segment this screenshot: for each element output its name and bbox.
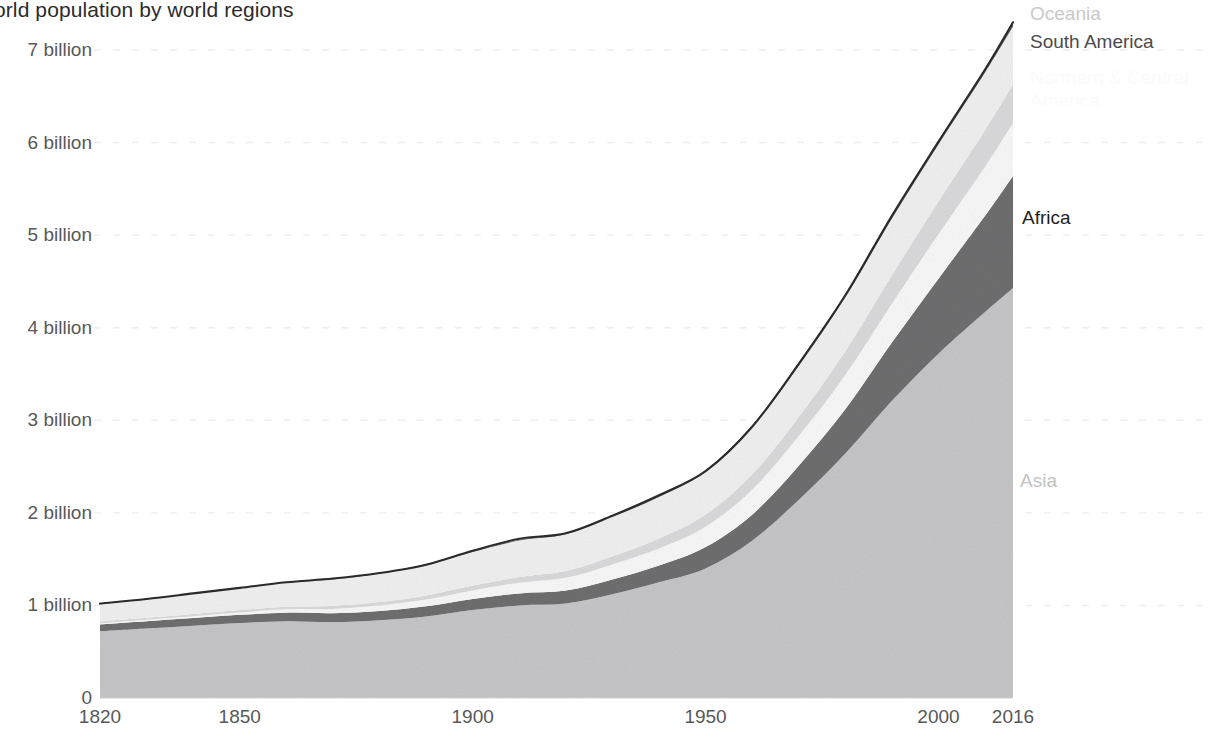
series-label-oceania: Oceania xyxy=(1030,2,1101,25)
y-axis-tick-label: 1 billion xyxy=(0,594,92,616)
y-axis-tick-label: 6 billion xyxy=(0,132,92,154)
y-axis-tick-label: 7 billion xyxy=(0,39,92,61)
series-label-south-america: South America xyxy=(1030,30,1154,53)
y-axis-tick-label: 3 billion xyxy=(0,409,92,431)
series-label-asia: Asia xyxy=(1020,469,1057,492)
series-label-northern-central-america-line1: Northern & Central xyxy=(1030,66,1188,89)
x-axis-tick-label: 1820 xyxy=(79,706,121,728)
chart-root: orld population by world regions 7 billi… xyxy=(0,0,1212,739)
x-axis-tick-label: 1900 xyxy=(452,706,494,728)
y-axis-tick-label: 4 billion xyxy=(0,317,92,339)
y-axis-tick-label: 2 billion xyxy=(0,502,92,524)
x-axis-tick-label: 2000 xyxy=(917,706,959,728)
series-label-northern-central-america-line2: America xyxy=(1030,89,1100,112)
y-axis-tick-label: 5 billion xyxy=(0,224,92,246)
x-axis-tick-label: 1950 xyxy=(684,706,726,728)
x-axis-tick-label: 1850 xyxy=(219,706,261,728)
x-axis-tick-label: 2016 xyxy=(992,706,1034,728)
series-label-africa: Africa xyxy=(1022,206,1071,229)
